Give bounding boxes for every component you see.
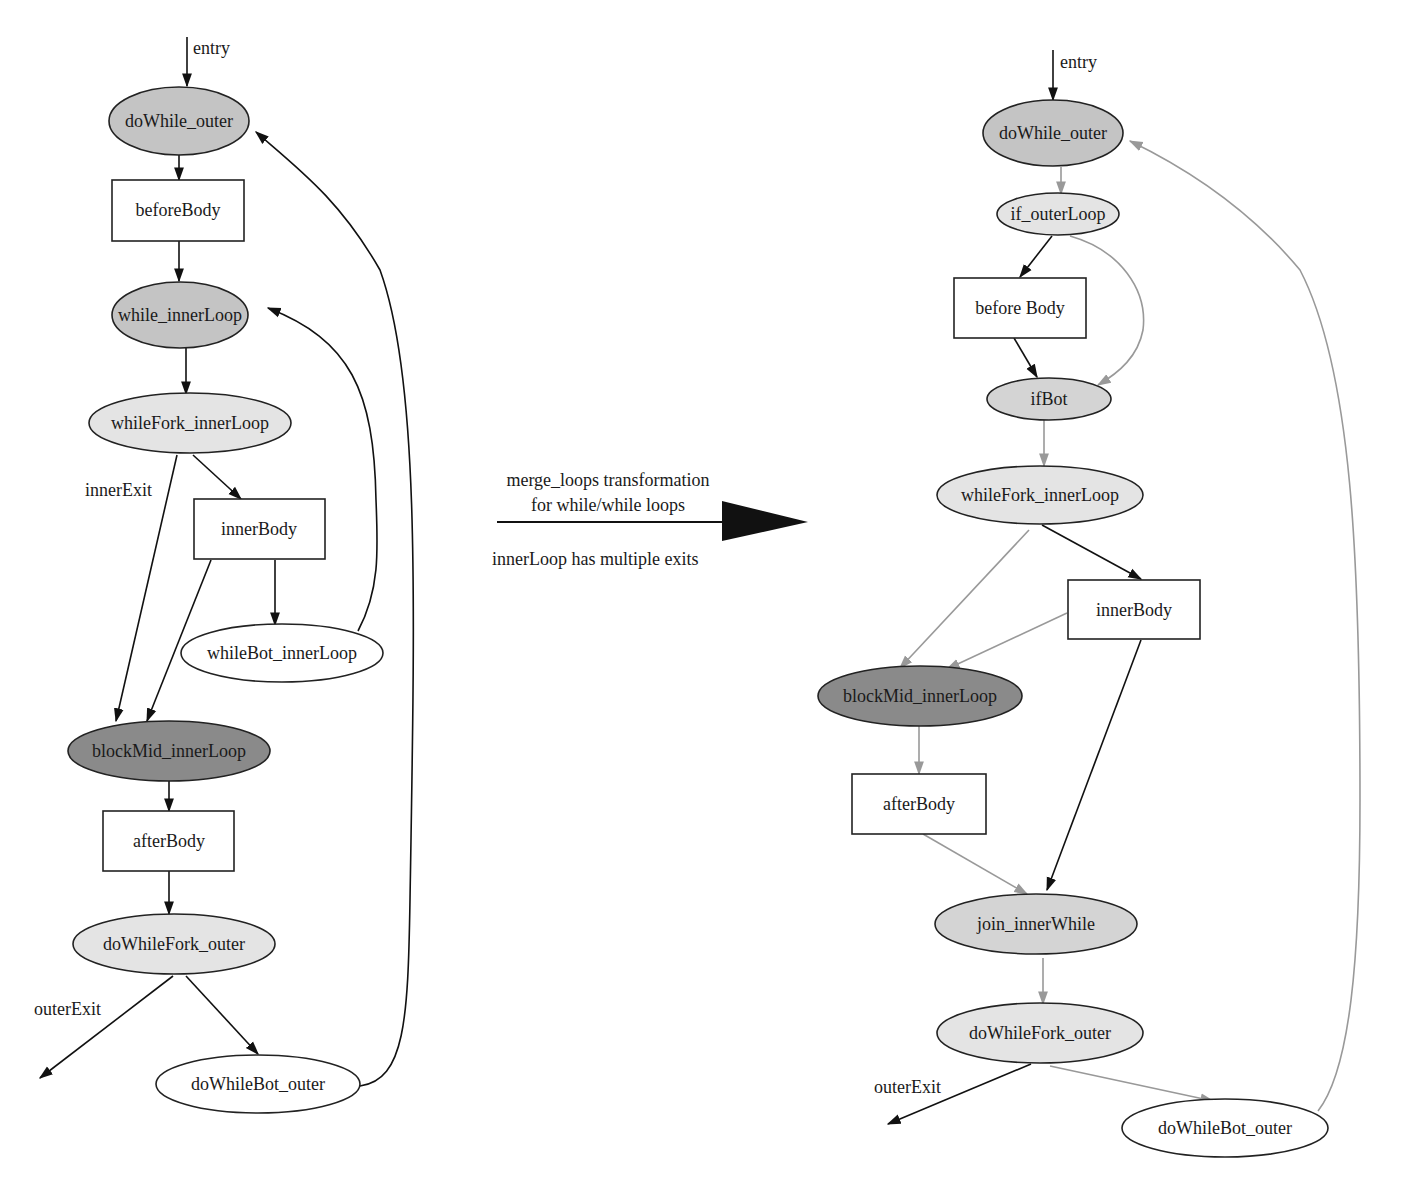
node-whilefork-innerloop[interactable]: whileFork_innerLoop: [937, 466, 1143, 524]
svg-text:blockMid_innerLoop: blockMid_innerLoop: [843, 686, 997, 706]
node-dowhilefork-outer[interactable]: doWhileFork_outer: [937, 1003, 1143, 1063]
node-blockmid-innerloop[interactable]: blockMid_innerLoop: [68, 721, 270, 781]
node-dowhilebot-outer[interactable]: doWhileBot_outer: [1122, 1099, 1328, 1157]
edge-afterbody-join: [923, 834, 1027, 894]
outer-exit-label: outerExit: [874, 1077, 941, 1097]
node-dowhile-outer[interactable]: doWhile_outer: [109, 87, 249, 155]
edge-whilebot-while-backedge: [268, 308, 377, 631]
svg-text:doWhileFork_outer: doWhileFork_outer: [103, 934, 245, 954]
edge-innerbody-blockmid: [947, 613, 1067, 669]
node-if-outerloop[interactable]: if_outerLoop: [997, 193, 1119, 235]
node-beforebody[interactable]: before Body: [954, 278, 1086, 338]
svg-text:whileBot_innerLoop: whileBot_innerLoop: [207, 643, 357, 663]
control-flow-diagram: entry doWhile_outer beforeBody while_inn…: [0, 0, 1403, 1203]
svg-text:ifBot: ifBot: [1030, 389, 1067, 409]
right-graph: entry doWhile_outer if_outerLoop before …: [818, 50, 1360, 1157]
entry-label: entry: [1060, 52, 1097, 72]
node-whilebot-innerloop[interactable]: whileBot_innerLoop: [181, 624, 383, 682]
node-dowhilefork-outer[interactable]: doWhileFork_outer: [73, 914, 275, 974]
node-blockmid-innerloop[interactable]: blockMid_innerLoop: [818, 666, 1022, 726]
edge-innerbody-join: [1047, 640, 1141, 890]
edge-outer-exit: [40, 976, 173, 1078]
node-join-innerwhile[interactable]: join_innerWhile: [935, 894, 1137, 954]
node-dowhilebot-outer[interactable]: doWhileBot_outer: [156, 1055, 360, 1113]
node-innerbody[interactable]: innerBody: [194, 499, 325, 559]
node-innerbody[interactable]: innerBody: [1068, 580, 1200, 639]
transform-note: innerLoop has multiple exits: [492, 549, 698, 569]
edge-whilefork-blockmid: [900, 530, 1029, 668]
svg-text:whileFork_innerLoop: whileFork_innerLoop: [961, 485, 1119, 505]
node-while-innerloop[interactable]: while_innerLoop: [112, 282, 248, 348]
edge-dowhilefork-dowhilebot: [186, 976, 258, 1054]
left-graph: entry doWhile_outer beforeBody while_inn…: [34, 37, 413, 1113]
svg-text:beforeBody: beforeBody: [136, 200, 221, 220]
edge-whilefork-innerbody: [193, 455, 241, 499]
entry-label: entry: [193, 38, 230, 58]
svg-text:doWhileFork_outer: doWhileFork_outer: [969, 1023, 1111, 1043]
edge-dowhilefork-dowhilebot: [1050, 1066, 1213, 1101]
svg-text:before Body: before Body: [975, 298, 1064, 318]
node-dowhile-outer[interactable]: doWhile_outer: [983, 100, 1123, 166]
arrow-head-icon: [722, 501, 808, 541]
svg-text:while_innerLoop: while_innerLoop: [118, 305, 242, 325]
edge-whilefork-innerbody: [1042, 525, 1141, 579]
edge-ifouterloop-beforebody: [1020, 236, 1052, 277]
node-whilefork-innerloop[interactable]: whileFork_innerLoop: [89, 393, 291, 453]
svg-text:doWhileBot_outer: doWhileBot_outer: [1158, 1118, 1292, 1138]
node-afterbody[interactable]: afterBody: [852, 774, 986, 834]
svg-text:innerBody: innerBody: [1096, 600, 1172, 620]
svg-text:doWhileBot_outer: doWhileBot_outer: [191, 1074, 325, 1094]
svg-text:innerBody: innerBody: [221, 519, 297, 539]
svg-text:join_innerWhile: join_innerWhile: [976, 914, 1095, 934]
svg-text:if_outerLoop: if_outerLoop: [1011, 204, 1106, 224]
svg-text:whileFork_innerLoop: whileFork_innerLoop: [111, 413, 269, 433]
outer-exit-label: outerExit: [34, 999, 101, 1019]
svg-text:afterBody: afterBody: [883, 794, 955, 814]
node-beforebody[interactable]: beforeBody: [112, 180, 244, 241]
svg-text:doWhile_outer: doWhile_outer: [125, 111, 233, 131]
svg-text:afterBody: afterBody: [133, 831, 205, 851]
edge-beforebody-ifbot: [1014, 338, 1037, 377]
node-afterbody[interactable]: afterBody: [103, 811, 234, 871]
transform-title-line2: for while/while loops: [531, 495, 685, 515]
node-ifbot[interactable]: ifBot: [987, 378, 1111, 420]
svg-text:blockMid_innerLoop: blockMid_innerLoop: [92, 741, 246, 761]
edge-dowhilebot-dowhile-backedge: [256, 132, 413, 1086]
svg-text:doWhile_outer: doWhile_outer: [999, 123, 1107, 143]
inner-exit-label: innerExit: [85, 480, 152, 500]
transformation-arrow: merge_loops transformation for while/whi…: [492, 470, 808, 569]
transform-title-line1: merge_loops transformation: [506, 470, 709, 490]
